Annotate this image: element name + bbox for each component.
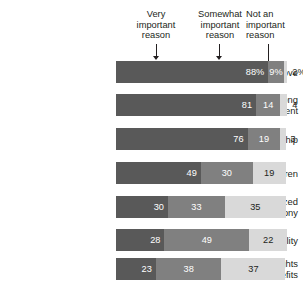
- legend-somewhat-line3: reason: [192, 30, 248, 41]
- arrow-head-somewhat-important: [216, 56, 222, 60]
- chart-row-companionship: Companionship 76 19 3: [0, 128, 303, 150]
- value-somewhat-important-legal-rights: 38: [184, 264, 194, 274]
- value-very-important-love: 88%: [246, 67, 264, 77]
- value-very-important-financial-stability: 28: [150, 235, 160, 245]
- value-somewhat-important-love: 9%: [269, 67, 282, 77]
- bar-lifelong-commitment: 81 14 4: [116, 94, 289, 116]
- segment-very-important-companionship: 76: [116, 128, 248, 150]
- legend-not-line2: important: [246, 20, 301, 31]
- segment-very-important-financial-stability: 28: [116, 229, 164, 251]
- value-not-important-religious-ceremony: 35: [250, 202, 260, 212]
- segment-not-important-companionship: 3: [280, 128, 285, 150]
- segment-somewhat-important-legal-rights: 38: [156, 258, 222, 280]
- value-somewhat-important-financial-stability: 49: [202, 235, 212, 245]
- value-not-important-financial-stability: 22: [263, 235, 273, 245]
- legend-somewhat-line2: important: [192, 20, 248, 31]
- chart-row-lifelong-commitment: Making a lifelong commitment 81 14 4: [0, 94, 303, 116]
- value-not-important-companionship: 3: [291, 134, 296, 144]
- legend-very-line3: reason: [119, 30, 193, 41]
- segment-somewhat-important-love: 9%: [268, 61, 284, 83]
- value-somewhat-important-companionship: 19: [259, 134, 269, 144]
- value-not-important-love: 2%: [292, 67, 303, 77]
- value-very-important-lifelong-commitment: 81: [242, 100, 252, 110]
- segment-somewhat-important-religious-ceremony: 33: [168, 196, 225, 218]
- value-somewhat-important-having-children: 30: [222, 168, 232, 178]
- value-very-important-legal-rights: 23: [142, 264, 152, 274]
- bar-having-children: 49 30 19: [116, 162, 289, 184]
- bar-religious-ceremony: 30 33 35: [116, 196, 289, 218]
- bar-legal-rights: 23 38 37: [116, 258, 289, 280]
- segment-very-important-having-children: 49: [116, 162, 201, 184]
- segment-somewhat-important-lifelong-commitment: 14: [256, 94, 280, 116]
- value-very-important-having-children: 49: [187, 168, 197, 178]
- legend-very-line1: Very: [119, 9, 193, 20]
- value-not-important-legal-rights: 37: [248, 264, 258, 274]
- chart-row-legal-rights: For legal rights and benefits 23 38 37: [0, 258, 303, 280]
- legend-label-not-important: Not an important reason: [246, 9, 301, 41]
- segment-not-important-religious-ceremony: 35: [225, 196, 286, 218]
- value-not-important-lifelong-commitment: 4: [292, 100, 297, 110]
- segment-somewhat-important-having-children: 30: [201, 162, 253, 184]
- chart-row-financial-stability: Financial stability 28 49 22: [0, 229, 303, 251]
- chart-row-religious-ceremony: A relationship recognized in a religious…: [0, 196, 303, 218]
- value-very-important-religious-ceremony: 30: [154, 202, 164, 212]
- legend-label-somewhat-important: Somewhat important reason: [192, 9, 248, 41]
- segment-very-important-religious-ceremony: 30: [116, 196, 168, 218]
- segment-not-important-lifelong-commitment: 4: [280, 94, 287, 116]
- segment-very-important-love: 88%: [116, 61, 268, 83]
- segment-not-important-financial-stability: 22: [249, 229, 287, 251]
- legend-not-line3: reason: [246, 30, 301, 41]
- chart-row-having-children: Having children 49 30 19: [0, 162, 303, 184]
- segment-not-important-having-children: 19: [253, 162, 286, 184]
- value-somewhat-important-religious-ceremony: 33: [191, 202, 201, 212]
- legend-not-line1: Not an: [246, 9, 301, 20]
- legend-very-line2: important: [119, 20, 193, 31]
- segment-not-important-legal-rights: 37: [221, 258, 285, 280]
- bar-financial-stability: 28 49 22: [116, 229, 289, 251]
- segment-somewhat-important-financial-stability: 49: [164, 229, 249, 251]
- segment-somewhat-important-companionship: 19: [248, 128, 281, 150]
- arrow-head-very-important: [153, 56, 159, 60]
- value-not-important-having-children: 19: [264, 168, 274, 178]
- legend-label-very-important: Very important reason: [119, 9, 193, 41]
- legend-somewhat-line1: Somewhat: [192, 9, 248, 20]
- value-somewhat-important-lifelong-commitment: 14: [263, 100, 273, 110]
- chart-row-love: Love 88% 9% 2%: [0, 61, 303, 83]
- bar-companionship: 76 19 3: [116, 128, 289, 150]
- segment-very-important-lifelong-commitment: 81: [116, 94, 256, 116]
- value-very-important-companionship: 76: [233, 134, 243, 144]
- bar-love: 88% 9% 2%: [116, 61, 289, 83]
- stacked-bar-chart: Very important reason Somewhat important…: [0, 0, 303, 286]
- segment-not-important-love: 2%: [284, 61, 288, 83]
- segment-very-important-legal-rights: 23: [116, 258, 156, 280]
